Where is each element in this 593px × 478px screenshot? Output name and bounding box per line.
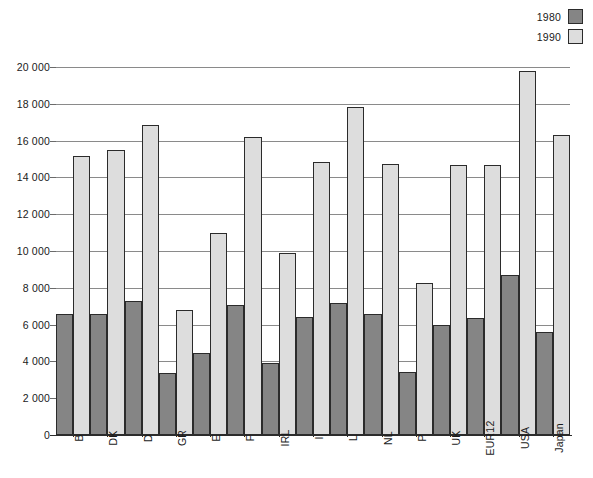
bar-p-1990 xyxy=(416,283,433,435)
bar-dk-1990 xyxy=(107,150,124,435)
bar-japan-1980 xyxy=(536,332,553,435)
x-axis-cell-i: I xyxy=(296,437,330,475)
bar-irl-1990 xyxy=(279,253,296,435)
legend-label-1980: 1980 xyxy=(537,11,561,23)
legend-swatch-1990 xyxy=(568,29,583,44)
bar-d-1980 xyxy=(125,301,142,435)
bar-usa-1990 xyxy=(519,71,536,435)
x-tick-label-eur12: EUR12 xyxy=(484,421,496,456)
y-tick-label-4000: 4 000 xyxy=(23,355,50,367)
bar-eur12-1990 xyxy=(484,165,501,435)
y-tick-label-20000: 20 000 xyxy=(17,61,50,73)
x-tick-label-usa: USA xyxy=(519,427,531,449)
bar-japan-1990 xyxy=(553,135,570,435)
y-tick-label-14000: 14 000 xyxy=(17,171,50,183)
bar-gr-1990 xyxy=(176,310,193,435)
legend-label-1990: 1990 xyxy=(537,31,561,43)
x-tick-label-dk: DK xyxy=(107,431,119,446)
bar-group-p xyxy=(399,67,433,435)
chart-legend: 1980 1990 xyxy=(473,8,583,48)
bar-series-container xyxy=(56,67,570,435)
bar-e-1990 xyxy=(210,233,227,435)
x-tick-label-b: B xyxy=(73,434,85,441)
bar-group-uk xyxy=(433,67,467,435)
x-tick-label-irl: IRL xyxy=(279,430,291,447)
x-axis-cell-japan: Japan xyxy=(536,437,570,475)
bar-usa-1980 xyxy=(501,275,518,435)
x-axis-cell-nl: NL xyxy=(364,437,398,475)
x-axis-cell-irl: IRL xyxy=(262,437,296,475)
legend-entry-1990: 1990 xyxy=(473,28,583,45)
bar-l-1990 xyxy=(347,107,364,435)
bar-group-i xyxy=(296,67,330,435)
legend-swatch-1980 xyxy=(568,9,583,24)
x-axis-cell-eur12: EUR12 xyxy=(467,437,501,475)
y-tick-label-2000: 2 000 xyxy=(23,392,50,404)
bar-f-1980 xyxy=(227,305,244,435)
bar-group-d xyxy=(125,67,159,435)
bar-gr-1980 xyxy=(159,373,176,435)
x-axis-cell-usa: USA xyxy=(501,437,535,475)
x-tick-label-p: P xyxy=(416,434,428,441)
y-tick-label-16000: 16 000 xyxy=(17,135,50,147)
bar-group-f xyxy=(227,67,261,435)
bar-irl-1980 xyxy=(262,363,279,435)
x-tick-label-e: E xyxy=(210,434,222,441)
bar-group-l xyxy=(330,67,364,435)
bar-group-gr xyxy=(159,67,193,435)
y-tick-label-6000: 6 000 xyxy=(23,319,50,331)
x-axis-cell-e: E xyxy=(193,437,227,475)
y-tick-label-12000: 12 000 xyxy=(17,208,50,220)
plot-area xyxy=(56,67,570,435)
bar-group-japan xyxy=(536,67,570,435)
x-axis-cell-dk: DK xyxy=(90,437,124,475)
bar-d-1990 xyxy=(142,125,159,435)
x-axis-cell-b: B xyxy=(56,437,90,475)
bar-e-1980 xyxy=(193,353,210,435)
bar-i-1990 xyxy=(313,162,330,435)
bar-i-1980 xyxy=(296,317,313,435)
bar-eur12-1980 xyxy=(467,318,484,435)
x-tick-label-uk: UK xyxy=(450,431,462,446)
y-tick-label-8000: 8 000 xyxy=(23,282,50,294)
y-tick-label-10000: 10 000 xyxy=(17,245,50,257)
x-axis-cell-f: F xyxy=(227,437,261,475)
x-axis-labels: BDKDGREFIRLILNLPUKEUR12USAJapan xyxy=(56,437,570,475)
x-tick-label-l: L xyxy=(347,435,359,441)
x-tick-label-f: F xyxy=(244,435,256,442)
bar-uk-1980 xyxy=(433,325,450,435)
bar-group-usa xyxy=(501,67,535,435)
bar-group-e xyxy=(193,67,227,435)
bar-chart: 1980 1990 02 0004 0006 0008 00010 00012 … xyxy=(0,0,593,478)
bar-group-b xyxy=(56,67,90,435)
bar-group-eur12 xyxy=(467,67,501,435)
bar-group-dk xyxy=(90,67,124,435)
x-axis-cell-uk: UK xyxy=(433,437,467,475)
x-tick-label-gr: GR xyxy=(176,430,188,446)
x-axis-cell-p: P xyxy=(399,437,433,475)
bar-p-1980 xyxy=(399,372,416,435)
bar-b-1990 xyxy=(73,156,90,435)
bar-uk-1990 xyxy=(450,165,467,435)
x-tick-label-d: D xyxy=(142,434,154,442)
x-axis-cell-gr: GR xyxy=(159,437,193,475)
y-axis: 02 0004 0006 0008 00010 00012 00014 0001… xyxy=(0,67,50,435)
x-tick-label-nl: NL xyxy=(382,431,394,445)
x-tick-label-japan: Japan xyxy=(553,423,565,453)
bar-f-1990 xyxy=(244,137,261,435)
bar-l-1980 xyxy=(330,303,347,435)
bar-group-nl xyxy=(364,67,398,435)
bar-nl-1980 xyxy=(364,314,381,435)
x-tick-label-i: I xyxy=(313,436,325,439)
bar-group-irl xyxy=(262,67,296,435)
y-tick-label-18000: 18 000 xyxy=(17,98,50,110)
bar-nl-1990 xyxy=(382,164,399,435)
bar-b-1980 xyxy=(56,314,73,435)
x-axis-cell-l: L xyxy=(330,437,364,475)
x-axis-cell-d: D xyxy=(125,437,159,475)
legend-entry-1980: 1980 xyxy=(473,8,583,25)
bar-dk-1980 xyxy=(90,314,107,435)
